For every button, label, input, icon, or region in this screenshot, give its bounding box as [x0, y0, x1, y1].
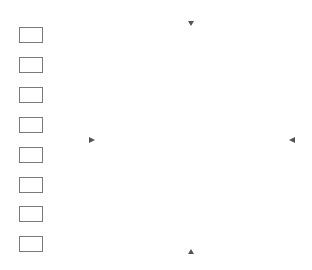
legend-item-992: [19, 117, 89, 135]
center-marker-top-icon: [188, 21, 194, 26]
color-swatch: [19, 206, 43, 222]
color-swatch: [19, 147, 43, 163]
legend-item-471: [19, 87, 89, 105]
legend-item-3689: [19, 147, 89, 165]
legend-item-445: [19, 27, 89, 45]
legend-item-783: [19, 57, 89, 75]
legend-item-209: [19, 206, 89, 224]
center-marker-right-icon: [289, 137, 295, 143]
color-swatch: [19, 27, 43, 43]
stitch-grid: [89, 24, 296, 254]
center-marker-left-icon: [89, 137, 95, 143]
color-swatch: [19, 57, 43, 73]
legend-item-606: [19, 177, 89, 195]
color-swatch: [19, 87, 43, 103]
color-swatch: [19, 117, 43, 133]
center-marker-bottom-icon: [188, 249, 194, 254]
legend-item-341: [19, 236, 89, 254]
color-swatch: [19, 177, 43, 193]
color-swatch: [19, 236, 43, 252]
color-key-legend: [0, 0, 88, 270]
cross-stitch-chart: [89, 24, 296, 254]
